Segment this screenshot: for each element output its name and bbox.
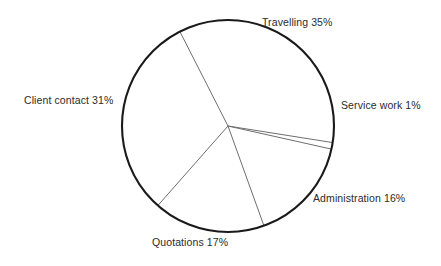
pie-label-quotations: Quotations 17%: [152, 236, 228, 248]
pie-chart-figure: Travelling 35% Service work 1% Administr…: [0, 0, 441, 266]
pie-label-client-contact: Client contact 31%: [24, 94, 113, 106]
pie-label-service-work: Service work 1%: [341, 99, 421, 111]
pie-label-travelling: Travelling 35%: [262, 16, 332, 28]
pie-chart-graphic: [0, 0, 441, 266]
pie-label-administration: Administration 16%: [313, 192, 405, 204]
